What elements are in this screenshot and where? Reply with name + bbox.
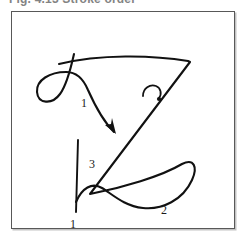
arrow-direction-1 bbox=[105, 118, 116, 134]
figure-root: Fig. 4.13 Stroke order 1 3 1 2 bbox=[0, 0, 248, 243]
label-1-top: 1 bbox=[81, 96, 87, 110]
figure-plate: 1 3 1 2 bbox=[11, 11, 235, 229]
stroke-main-z bbox=[59, 56, 195, 208]
figure-caption-strip: Fig. 4.13 Stroke order bbox=[0, 0, 248, 7]
stroke-entry-loop bbox=[37, 54, 114, 132]
arrow-hook-small bbox=[143, 85, 161, 98]
label-1-bottom: 1 bbox=[70, 217, 76, 228]
label-3-middle: 3 bbox=[89, 157, 95, 171]
arrow-hook-small-tip bbox=[157, 97, 161, 101]
stroke-diagram-canvas: 1 3 1 2 bbox=[12, 12, 234, 228]
stroke-vertical-stem bbox=[76, 140, 78, 212]
figure-caption: Fig. 4.13 Stroke order bbox=[9, 0, 136, 6]
stroke-order-svg: 1 3 1 2 bbox=[12, 12, 234, 228]
label-2-right: 2 bbox=[161, 203, 167, 217]
